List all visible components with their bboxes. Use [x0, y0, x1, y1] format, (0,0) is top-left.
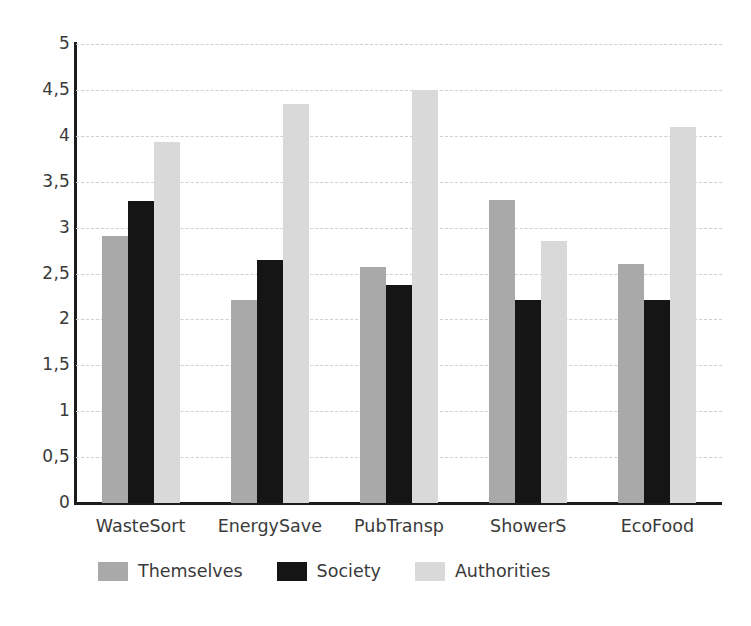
bar[interactable] — [515, 300, 541, 503]
y-axis-tick-label: 5 — [4, 35, 70, 52]
bar[interactable] — [102, 236, 128, 503]
bar[interactable] — [386, 285, 412, 503]
legend-item[interactable]: Themselves — [98, 562, 243, 581]
bar-group-bars — [334, 44, 463, 503]
bar-groups — [76, 44, 722, 503]
bar[interactable] — [128, 201, 154, 503]
legend-swatch-icon — [277, 562, 307, 581]
y-axis-tick-label: 3 — [4, 219, 70, 236]
bar[interactable] — [283, 104, 309, 503]
bar-group — [205, 44, 334, 503]
bar[interactable] — [231, 300, 257, 503]
y-axis-tick-label: 1 — [4, 402, 70, 419]
bar[interactable] — [644, 300, 670, 503]
bar-group-bars — [464, 44, 593, 503]
bar-group — [464, 44, 593, 503]
y-axis-tick-label: 3,5 — [4, 173, 70, 190]
y-axis-tick-label: 0 — [4, 494, 70, 511]
bar-group — [593, 44, 722, 503]
bar[interactable] — [618, 264, 644, 503]
bar[interactable] — [154, 142, 180, 503]
bar[interactable] — [489, 200, 515, 503]
bar[interactable] — [412, 90, 438, 503]
legend-item[interactable]: Authorities — [415, 562, 550, 581]
legend-item[interactable]: Society — [277, 562, 381, 581]
x-axis-category-label: PubTransp — [334, 512, 463, 544]
y-axis-tick-label: 2 — [4, 310, 70, 327]
legend-swatch-icon — [415, 562, 445, 581]
bar[interactable] — [257, 260, 283, 503]
y-axis-tick-label: 4,5 — [4, 81, 70, 98]
legend-swatch-icon — [98, 562, 128, 581]
legend-label: Authorities — [455, 562, 550, 581]
y-axis-tick-label: 1,5 — [4, 356, 70, 373]
legend-label: Society — [317, 562, 381, 581]
bar[interactable] — [360, 267, 386, 503]
x-axis-category-label: EcoFood — [593, 512, 722, 544]
x-axis-category-label: EnergySave — [205, 512, 334, 544]
legend-label: Themselves — [138, 562, 243, 581]
bar-group-bars — [76, 44, 205, 503]
bar-group-bars — [593, 44, 722, 503]
y-axis-tick-labels: 00,511,522,533,544,55 — [0, 0, 70, 626]
chart-legend: ThemselvesSocietyAuthorities — [98, 562, 584, 581]
plot-area — [76, 44, 722, 503]
bar-chart: 00,511,522,533,544,55 WasteSortEnergySav… — [0, 0, 751, 626]
y-axis-tick-label: 0,5 — [4, 448, 70, 465]
x-axis-category-label: ShowerS — [464, 512, 593, 544]
bar[interactable] — [541, 241, 567, 503]
x-axis-category-labels: WasteSortEnergySavePubTranspShowerSEcoFo… — [76, 512, 722, 544]
bar-group — [334, 44, 463, 503]
bar-group-bars — [205, 44, 334, 503]
bar[interactable] — [670, 127, 696, 503]
x-axis-category-label: WasteSort — [76, 512, 205, 544]
y-axis-tick-label: 2,5 — [4, 265, 70, 282]
bar-group — [76, 44, 205, 503]
y-axis-tick-label: 4 — [4, 127, 70, 144]
